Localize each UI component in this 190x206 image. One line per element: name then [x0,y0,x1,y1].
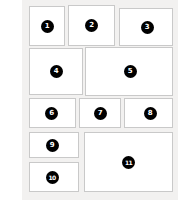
panel-6[interactable]: 6 [29,98,76,128]
panel-8-number-badge: 8 [144,107,157,120]
panel-7[interactable]: 7 [79,98,121,128]
panel-5-number-badge: 5 [124,65,137,78]
layout-canvas: 1 2 3 4 5 6 7 8 9 10 11 [0,0,190,206]
panel-9[interactable]: 9 [29,132,79,158]
panel-4-number-badge: 4 [50,65,63,78]
panel-5[interactable]: 5 [85,47,173,96]
panel-10-number-badge: 10 [46,171,59,184]
panel-4[interactable]: 4 [29,48,83,95]
panel-2-number-badge: 2 [85,19,98,32]
panel-8[interactable]: 8 [124,98,173,128]
panel-10[interactable]: 10 [29,162,79,192]
panel-11-number-badge: 11 [122,156,135,169]
panel-6-number-badge: 6 [45,107,58,120]
panel-3-number-badge: 3 [141,21,154,34]
panel-7-number-badge: 7 [94,107,107,120]
panel-3[interactable]: 3 [119,8,173,46]
panel-11[interactable]: 11 [84,132,173,192]
panel-2[interactable]: 2 [68,5,115,46]
panel-9-number-badge: 9 [46,139,59,152]
panel-1[interactable]: 1 [29,6,65,46]
panel-1-number-badge: 1 [41,20,54,33]
